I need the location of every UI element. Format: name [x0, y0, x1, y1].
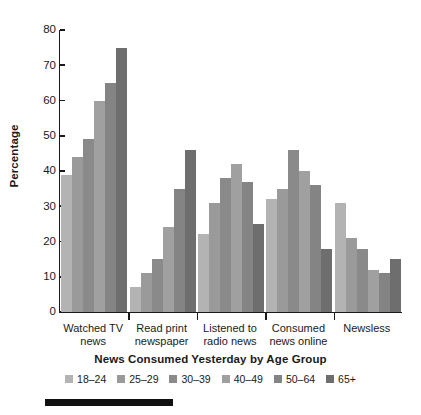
y-axis-tick-label: 20: [43, 236, 60, 248]
legend-label: 25–29: [129, 374, 158, 385]
chart-legend: 18–2425–2930–3940–4950–6465+: [0, 374, 421, 385]
bar[interactable]: [163, 227, 174, 312]
bar-group: [334, 30, 402, 312]
bar-chart-figure: Percentage 01020304050607080 Watched TV …: [0, 0, 421, 415]
x-axis-tick-label: Listened to radio news: [196, 322, 264, 347]
bar[interactable]: [116, 48, 127, 312]
x-axis-group-separator: [197, 312, 198, 320]
legend-swatch: [326, 375, 334, 383]
x-axis-tick-label: Read print newspaper: [127, 322, 195, 347]
bar[interactable]: [288, 150, 299, 312]
y-axis-title: Percentage: [2, 0, 24, 312]
bar[interactable]: [61, 175, 72, 312]
bar[interactable]: [105, 83, 116, 312]
bar[interactable]: [152, 259, 163, 312]
x-axis-group-separator: [334, 312, 335, 320]
bar[interactable]: [220, 178, 231, 312]
y-axis-title-label: Percentage: [7, 124, 19, 187]
bar-group: [197, 30, 265, 312]
bar[interactable]: [253, 224, 264, 312]
x-axis-tick-label: Watched TV news: [59, 322, 127, 347]
legend-swatch: [222, 375, 230, 383]
plot-area: 01020304050607080: [59, 30, 402, 313]
bar-group: [60, 30, 128, 312]
bar[interactable]: [310, 185, 321, 312]
bar[interactable]: [335, 203, 346, 312]
legend-swatch: [274, 375, 282, 383]
y-axis-tick-label: 80: [43, 24, 60, 36]
bar[interactable]: [321, 249, 332, 312]
y-axis-tick-label: 0: [50, 306, 60, 318]
x-axis-group-separator: [265, 312, 266, 320]
y-axis-tick-label: 50: [43, 130, 60, 142]
x-axis-group-separator: [128, 312, 129, 320]
bar[interactable]: [174, 189, 185, 312]
bar[interactable]: [231, 164, 242, 312]
bar-group: [128, 30, 196, 312]
x-axis-tick-label: Newsless: [333, 322, 401, 347]
bar[interactable]: [346, 238, 357, 312]
legend-item[interactable]: 50–64: [274, 374, 315, 385]
bars-layer: [60, 30, 402, 312]
bar[interactable]: [185, 150, 196, 312]
x-axis-tick-labels: Watched TV newsRead print newspaperListe…: [59, 322, 401, 347]
legend-swatch: [65, 375, 73, 383]
legend-label: 30–39: [181, 374, 210, 385]
legend-label: 18–24: [77, 374, 106, 385]
y-axis-tick-label: 40: [43, 165, 60, 177]
legend-label: 40–49: [234, 374, 263, 385]
x-axis-title: News Consumed Yesterday by Age Group: [0, 353, 421, 365]
legend-item[interactable]: 25–29: [117, 374, 158, 385]
legend-label: 50–64: [286, 374, 315, 385]
bar[interactable]: [209, 203, 220, 312]
legend-item[interactable]: 18–24: [65, 374, 106, 385]
bar[interactable]: [83, 139, 94, 312]
bar[interactable]: [130, 287, 141, 312]
y-axis-tick-label: 10: [43, 271, 60, 283]
bar[interactable]: [277, 189, 288, 312]
bar[interactable]: [94, 101, 105, 313]
bar[interactable]: [242, 182, 253, 312]
bar-group: [265, 30, 333, 312]
legend-item[interactable]: 65+: [326, 374, 356, 385]
y-axis-tick-label: 70: [43, 60, 60, 72]
bar[interactable]: [299, 171, 310, 312]
legend-swatch: [169, 375, 177, 383]
bar[interactable]: [72, 157, 83, 312]
legend-item[interactable]: 30–39: [169, 374, 210, 385]
legend-swatch: [117, 375, 125, 383]
bar[interactable]: [198, 234, 209, 312]
bar[interactable]: [368, 270, 379, 312]
bar[interactable]: [141, 273, 152, 312]
bar[interactable]: [379, 273, 390, 312]
bar[interactable]: [390, 259, 401, 312]
y-axis-tick-label: 30: [43, 201, 60, 213]
legend-label: 65+: [338, 374, 356, 385]
bottom-rule: [45, 399, 173, 406]
x-axis-tick-label: Consumed news online: [264, 322, 332, 347]
y-axis-tick-label: 60: [43, 95, 60, 107]
bar[interactable]: [266, 199, 277, 312]
legend-item[interactable]: 40–49: [222, 374, 263, 385]
bar[interactable]: [357, 249, 368, 312]
